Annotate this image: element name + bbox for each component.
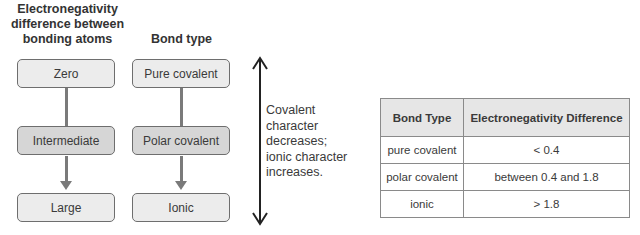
box-zero: Zero: [17, 59, 115, 88]
connector-left-1: [65, 88, 68, 126]
trend-note-line-5: increases.: [266, 165, 366, 181]
connector-middle-2: [180, 156, 183, 184]
trend-note-line-1: Covalent: [266, 103, 366, 119]
table-row: ionic > 1.8: [381, 191, 630, 218]
cell-bond-type: polar covalent: [381, 164, 464, 191]
cell-difference: < 0.4: [464, 137, 630, 164]
box-intermediate: Intermediate: [17, 126, 115, 155]
cell-difference: > 1.8: [464, 191, 630, 218]
cell-difference: between 0.4 and 1.8: [464, 164, 630, 191]
cell-bond-type: ionic: [381, 191, 464, 218]
trend-note-line-2: character: [266, 119, 366, 135]
table-header-row: Bond Type Electronegativity Difference: [381, 99, 630, 137]
arrow-head-left-icon: [60, 181, 72, 190]
left-heading-line-1: Electronegativity: [0, 2, 135, 17]
arrow-head-middle-icon: [175, 181, 187, 190]
left-column-heading: Electronegativity difference between bon…: [0, 2, 135, 47]
table-row: pure covalent < 0.4: [381, 137, 630, 164]
left-heading-line-3: bonding atoms: [0, 32, 135, 47]
cell-bond-type: pure covalent: [381, 137, 464, 164]
trend-note-line-3: decreases;: [266, 134, 366, 150]
connector-middle-1: [180, 88, 183, 126]
header-bond-type: Bond Type: [381, 99, 464, 137]
bond-type-table: Bond Type Electronegativity Difference p…: [380, 98, 630, 218]
trend-note-line-4: ionic character: [266, 150, 366, 166]
table-row: polar covalent between 0.4 and 1.8: [381, 164, 630, 191]
connector-left-2: [65, 156, 68, 184]
header-electronegativity-difference: Electronegativity Difference: [464, 99, 630, 137]
box-ionic: Ionic: [132, 193, 230, 222]
left-heading-line-2: difference between: [0, 17, 135, 32]
box-polar-covalent: Polar covalent: [132, 126, 230, 155]
box-pure-covalent: Pure covalent: [132, 59, 230, 88]
trend-note: Covalent character decreases; ionic char…: [266, 103, 366, 181]
middle-column-heading: Bond type: [132, 32, 231, 47]
box-large: Large: [17, 193, 115, 222]
